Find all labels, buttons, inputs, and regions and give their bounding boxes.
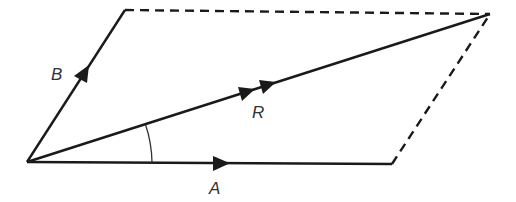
dashed-top-side (125, 10, 490, 14)
vector-a-arrowhead-icon (213, 156, 230, 171)
vector-parallelogram-diagram (0, 0, 516, 202)
angle-arc (146, 125, 153, 163)
vector-b-label: B (51, 66, 62, 83)
vector-r-line (27, 14, 490, 162)
vector-b-arrowhead-icon (74, 65, 89, 83)
vector-r-label: R (252, 104, 264, 121)
vector-r-arrowhead-2-icon (259, 80, 276, 94)
vector-b-line (27, 10, 125, 162)
dashed-right-side (392, 14, 490, 164)
vector-r-arrowhead-1-icon (238, 87, 255, 101)
vector-a-label: A (209, 180, 220, 197)
vector-a-line (27, 162, 392, 164)
